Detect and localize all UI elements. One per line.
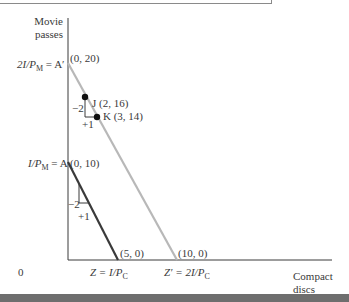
point-j (82, 94, 88, 100)
label-point-j: J (2, 16) (92, 97, 129, 110)
annotation-0-10: (0, 10) (70, 157, 100, 170)
x-axis-label-line1: Compact (293, 270, 333, 282)
annotation-10-0: (10, 0) (178, 247, 208, 260)
bottom-frame-bar (0, 294, 349, 302)
run-label-upper: +1 (82, 118, 94, 130)
tick-z-prime: Z′ = 2I/PC (164, 266, 210, 281)
budget-line-original (68, 162, 118, 260)
annotation-5-0: (5, 0) (120, 247, 144, 260)
y-axis-label-line1: Movie (34, 15, 63, 27)
origin-label: 0 (18, 266, 24, 278)
point-k (94, 114, 100, 120)
annotation-0-20: (0, 20) (70, 52, 100, 65)
run-label-lower: +1 (78, 210, 90, 222)
y-axis-label-line2: passes (35, 28, 63, 40)
label-point-k: K (3, 14) (103, 110, 143, 123)
tick-a-prime: 2I/PM = A′ (17, 58, 65, 73)
rise-label-lower: −2 (68, 198, 80, 210)
rise-label-upper: −2 (72, 102, 84, 114)
tick-a: I/PM = A (27, 157, 68, 172)
budget-line-chart: Movie passes Compact discs 0 2I/PM = A′ … (0, 0, 349, 302)
tick-z: Z = I/PC (90, 266, 128, 281)
